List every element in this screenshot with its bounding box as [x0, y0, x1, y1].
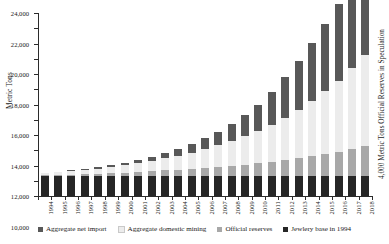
legend-item: Aggregate net import [38, 225, 107, 233]
bar-series-group [38, 13, 372, 196]
bar-stack [361, 0, 369, 196]
bar-segment [361, 0, 369, 55]
bar-segment [308, 43, 316, 102]
y-tick-label: 24,000 [11, 10, 29, 17]
bar-segment [348, 0, 356, 68]
x-tick-label: 2003 [168, 201, 175, 215]
bar-segment [214, 167, 222, 176]
x-tick [278, 196, 279, 200]
bar-stack [254, 105, 262, 196]
x-tick-label: 2008 [234, 201, 241, 215]
x-tick-label: 2000 [127, 201, 134, 215]
bar-segment [281, 118, 289, 160]
legend-item: Official reserves [217, 225, 272, 233]
x-tick-label: 2018 [368, 201, 375, 215]
bar-segment [67, 176, 75, 196]
bar-segment [174, 149, 182, 156]
legend-label: Official reserves [225, 225, 272, 233]
bar-segment [134, 176, 142, 196]
bar-segment [295, 110, 303, 158]
x-tick [145, 196, 146, 200]
x-tick-label: 2016 [341, 201, 348, 215]
bar-segment [41, 176, 49, 196]
bar-stack [201, 138, 209, 196]
bar-segment [148, 176, 156, 196]
bar-segment [348, 149, 356, 176]
bar-stack [107, 165, 115, 196]
bar-stack [94, 167, 102, 196]
bar-segment [188, 153, 196, 169]
bar-segment [201, 168, 209, 176]
x-tick [212, 196, 213, 200]
bar-segment [121, 165, 129, 172]
bar-segment [241, 176, 249, 196]
bar-segment [308, 101, 316, 156]
bar-segment [335, 152, 343, 177]
bar-segment [228, 166, 236, 176]
bar-segment [94, 176, 102, 196]
x-tick-label: 2004 [181, 201, 188, 215]
x-tick [38, 196, 39, 200]
x-tick [65, 196, 66, 200]
x-tick [172, 196, 173, 200]
x-tick [225, 196, 226, 200]
bar-segment [174, 156, 182, 170]
bar-segment [81, 176, 89, 196]
bar-segment [148, 161, 156, 171]
x-tick-label: 2009 [248, 201, 255, 215]
x-tick [252, 196, 253, 200]
x-tick [185, 196, 186, 200]
x-tick [91, 196, 92, 200]
legend-item: Aggregate domestic mining [118, 225, 207, 233]
legend-swatch-icon [118, 226, 125, 233]
x-tick-label: 2010 [261, 201, 268, 215]
x-tick [292, 196, 293, 200]
bar-stack [308, 43, 316, 196]
bar-stack [281, 77, 289, 196]
x-tick [132, 196, 133, 200]
bar-segment [201, 149, 209, 168]
bar-stack [321, 24, 329, 196]
bar-segment [174, 176, 182, 196]
x-axis-line [38, 196, 372, 197]
x-tick [305, 196, 306, 200]
bar-segment [268, 176, 276, 196]
x-tick-label: 1994 [47, 201, 54, 215]
bar-segment [214, 176, 222, 196]
x-tick [332, 196, 333, 200]
x-tick [265, 196, 266, 200]
bar-segment [161, 176, 169, 196]
bar-segment [54, 176, 62, 196]
bar-stack [41, 173, 49, 196]
bar-segment [241, 165, 249, 177]
bar-segment [361, 55, 369, 146]
bar-stack [161, 153, 169, 196]
bar-segment [361, 176, 369, 196]
bar-segment [201, 176, 209, 196]
bar-stack [241, 115, 249, 196]
right-axis-title: 4,000 Metric Tons Official Reserves in S… [378, 6, 386, 202]
x-tick [319, 196, 320, 200]
bar-segment [321, 176, 329, 196]
bar-segment [107, 176, 115, 196]
bar-segment [281, 176, 289, 196]
bar-segment [241, 136, 249, 164]
x-tick-label: 2012 [288, 201, 295, 215]
bar-segment [361, 146, 369, 177]
bar-segment [201, 138, 209, 149]
x-tick [105, 196, 106, 200]
bar-segment [281, 77, 289, 118]
bar-segment [134, 163, 142, 172]
x-tick [51, 196, 52, 200]
bar-segment [188, 176, 196, 196]
bar-stack [295, 61, 303, 196]
x-tick-label: 2013 [301, 201, 308, 215]
bar-segment [308, 156, 316, 176]
x-tick [345, 196, 346, 200]
bar-segment [188, 169, 196, 176]
bar-stack [228, 124, 236, 196]
y-axis-title: Metric Tons [5, 51, 14, 131]
plot-area: 02,0004,0006,0008,00010,00012,00014,0001… [38, 13, 372, 196]
x-tick [118, 196, 119, 200]
bar-segment [308, 176, 316, 196]
